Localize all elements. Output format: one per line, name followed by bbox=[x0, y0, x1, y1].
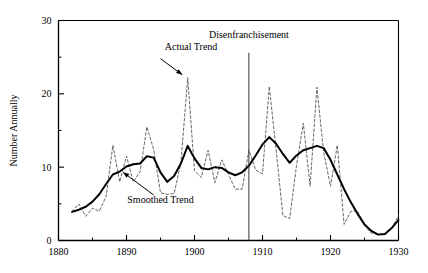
y-axis-title: Number Annually bbox=[8, 95, 19, 167]
x-tick-label: 1900 bbox=[185, 246, 205, 257]
x-tick-label: 1880 bbox=[49, 246, 69, 257]
y-tick-label: 20 bbox=[42, 88, 52, 99]
x-tick-label: 1910 bbox=[253, 246, 273, 257]
x-tick-label: 1920 bbox=[321, 246, 341, 257]
y-tick-label: 10 bbox=[42, 162, 52, 173]
x-tick-label: 1930 bbox=[389, 246, 409, 257]
y-tick-label: 30 bbox=[42, 15, 52, 26]
disenfranchisement-label: Disenfranchisement bbox=[209, 29, 289, 40]
chart-container: 188018901900191019201930 0102030 Number … bbox=[0, 0, 428, 273]
x-tick-label: 1890 bbox=[117, 246, 137, 257]
actual-trend-label: Actual Trend bbox=[165, 41, 218, 52]
y-tick-label: 0 bbox=[47, 235, 52, 246]
smoothed-trend-label: Smoothed Trend bbox=[127, 194, 193, 205]
line-chart: 188018901900191019201930 0102030 Number … bbox=[0, 0, 428, 273]
